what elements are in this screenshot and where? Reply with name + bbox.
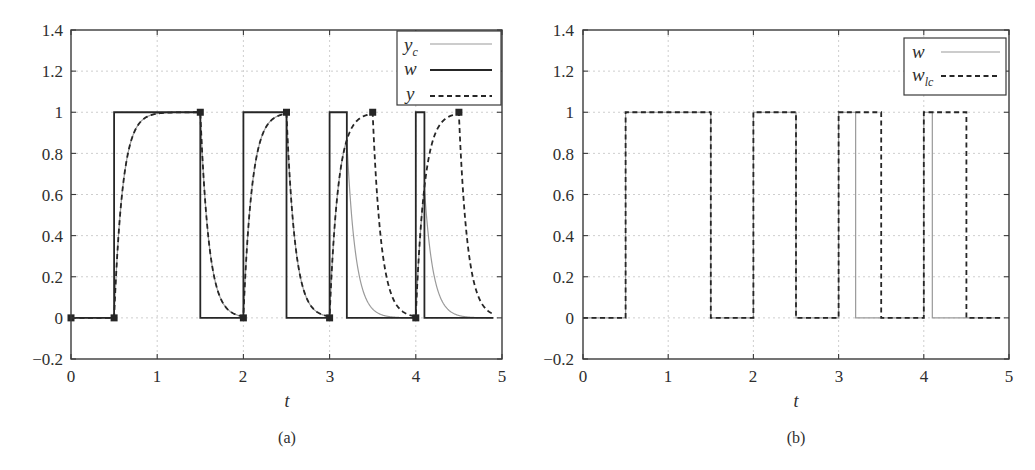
panel-b-chart: −0.2 0 0.2 0.4 0.6 0.8 1 1.2 1.4 0 1 2 3… [543, 21, 1013, 447]
x-tick-label: 0 [579, 367, 588, 386]
y-tick-label: 1.4 [42, 21, 64, 40]
y-tick-label: −0.2 [32, 350, 63, 369]
y-tick-label: 0 [566, 309, 575, 328]
legend-label: y [404, 83, 415, 104]
y-tick-label: 0.2 [553, 268, 574, 287]
panel-b-x-tick-labels: 0 1 2 3 4 5 [579, 367, 1014, 386]
x-tick-label: 1 [664, 367, 673, 386]
legend-label: w [912, 64, 925, 85]
y-tick-label: 1.2 [42, 62, 63, 81]
panel-a-x-tick-labels: 0 1 2 3 4 5 [67, 367, 507, 386]
legend-subscript: c [412, 45, 418, 59]
y-tick-label: 0.8 [553, 145, 574, 164]
figure: −0.2 0 0.2 0.4 0.6 0.8 1 1.2 1.4 0 1 2 3… [0, 0, 1035, 470]
series-w-line [583, 112, 1000, 318]
panel-a-caption: (a) [278, 429, 296, 447]
panel-a-legend: yc w y [397, 31, 501, 105]
legend-label: w [404, 58, 417, 79]
panel-a-series [68, 109, 494, 322]
sample-marker [455, 109, 462, 116]
x-tick-label: 0 [67, 367, 76, 386]
sample-marker [283, 109, 290, 116]
x-tick-label: 2 [239, 367, 248, 386]
x-tick-label: 4 [412, 367, 421, 386]
y-tick-label: 1.2 [553, 62, 574, 81]
y-tick-label: 0.2 [42, 268, 63, 287]
x-tick-label: 3 [326, 367, 335, 386]
x-tick-label: 2 [749, 367, 758, 386]
panel-a-x-axis-label: t [284, 391, 290, 411]
panel-b-y-tick-labels: −0.2 0 0.2 0.4 0.6 0.8 1 1.2 1.4 [543, 21, 574, 369]
y-tick-label: 1 [566, 103, 575, 122]
panel-b-legend: w wlc [904, 38, 1006, 95]
x-tick-label: 5 [1005, 367, 1014, 386]
panel-a-y-tick-labels: −0.2 0 0.2 0.4 0.6 0.8 1 1.2 1.4 [32, 21, 63, 369]
series-wlc-line [583, 112, 1000, 318]
legend-label: y [402, 34, 413, 55]
series-y-line [71, 112, 493, 318]
x-tick-label: 5 [498, 367, 507, 386]
y-tick-label: 0 [55, 309, 64, 328]
svg-text:w: w [404, 58, 417, 79]
y-tick-label: 0.6 [553, 186, 574, 205]
y-tick-label: 0.8 [42, 145, 63, 164]
sample-marker [197, 109, 204, 116]
x-tick-label: 1 [153, 367, 162, 386]
sample-marker [369, 109, 376, 116]
y-tick-label: 1.4 [553, 21, 575, 40]
sample-marker [111, 314, 118, 321]
y-tick-label: 0.4 [42, 227, 64, 246]
legend-label: w [912, 41, 925, 62]
legend-subscript: lc [925, 75, 934, 89]
series-w-line [71, 112, 493, 318]
y-tick-label: 0.6 [42, 186, 63, 205]
x-tick-label: 3 [835, 367, 844, 386]
sample-marker [326, 314, 333, 321]
y-tick-label: 0.4 [553, 227, 575, 246]
panel-b-x-axis-label: t [793, 391, 799, 411]
y-tick-label: −0.2 [543, 350, 574, 369]
svg-text:w: w [912, 41, 925, 62]
x-tick-label: 4 [920, 367, 929, 386]
sample-marker [412, 314, 419, 321]
panel-b-series [583, 112, 1000, 318]
panel-a-chart: −0.2 0 0.2 0.4 0.6 0.8 1 1.2 1.4 0 1 2 3… [32, 21, 506, 447]
series-yc-line [71, 112, 493, 318]
svg-text:y: y [404, 83, 415, 104]
y-tick-label: 1 [55, 103, 64, 122]
sample-marker [240, 314, 247, 321]
panel-b-caption: (b) [787, 429, 806, 447]
